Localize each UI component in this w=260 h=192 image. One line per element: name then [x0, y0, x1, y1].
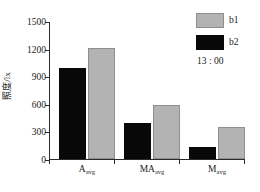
y-axis-label: 照度/lx: [2, 56, 12, 116]
x-category-base: M: [208, 164, 216, 174]
y-tick-mark: [45, 50, 49, 51]
y-tick-label: 0: [18, 156, 46, 165]
y-tick-label: 1500: [18, 18, 46, 27]
bar-b2-MA-avg: [124, 123, 151, 159]
bar-b2-M-avg: [189, 147, 216, 159]
x-category-base: MA: [140, 164, 155, 174]
y-tick-mark: [45, 132, 49, 133]
y-tick-mark: [45, 105, 49, 106]
bar-b1-M-avg: [218, 127, 245, 159]
y-axis-tick-labels: 1500 1200 900 600 300 0: [18, 0, 46, 192]
bar-b1-A-avg: [88, 48, 115, 159]
y-tick-label: 1200: [18, 46, 46, 55]
legend-label-b2: b2: [229, 37, 239, 47]
y-tick-mark: [45, 22, 49, 23]
legend-entry-b1: b1: [196, 12, 258, 30]
bar-chart-figure: 照度/lx 1500 1200 900 600 300 0 Aavg: [0, 0, 260, 192]
y-axis-spine: [49, 22, 50, 161]
x-axis-spine: [49, 159, 245, 160]
chart-legend: b1 b2 13 : 00: [196, 12, 258, 66]
y-tick-label: 600: [18, 101, 46, 110]
y-tick-mark: [45, 77, 49, 78]
legend-entry-b2: b2: [196, 34, 258, 52]
y-tick-label: 300: [18, 128, 46, 137]
legend-label-b1: b1: [229, 15, 239, 25]
x-category-label-1: Aavg: [57, 164, 117, 175]
legend-time-annotation: 13 : 00: [196, 56, 258, 66]
legend-swatch-b1-icon: [196, 13, 224, 28]
x-category-label-3: Mavg: [187, 164, 247, 175]
y-tick-label: 900: [18, 73, 46, 82]
x-category-sub: avg: [86, 168, 95, 175]
x-category-base: A: [79, 164, 86, 174]
legend-swatch-b2-icon: [196, 35, 224, 50]
x-category-sub: avg: [155, 168, 164, 175]
bar-b1-MA-avg: [153, 105, 180, 159]
x-tick-mark: [49, 160, 50, 164]
x-category-label-2: MAavg: [122, 164, 182, 175]
x-category-sub: avg: [217, 168, 226, 175]
bar-b2-A-avg: [59, 68, 86, 159]
